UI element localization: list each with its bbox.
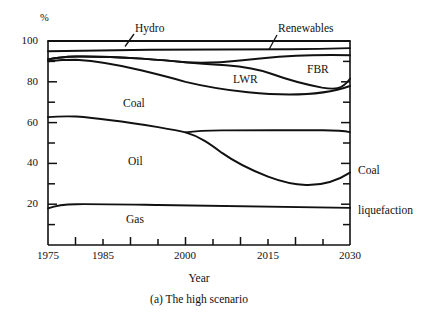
x-axis-title: Year: [169, 272, 229, 284]
band-label-oil: Oil: [128, 155, 143, 167]
y-tick-label-20: 20: [8, 198, 38, 210]
x-tick-label-1975: 1975: [28, 250, 68, 262]
renewables-leader-line: [269, 35, 277, 50]
x-tick-label-2030: 2030: [330, 250, 370, 262]
band-label-gas: Gas: [126, 213, 144, 225]
y-tick-label-60: 60: [8, 117, 38, 129]
curve-coal-liquefaction-boundary: [186, 130, 351, 132]
x-tick-label-1985: 1985: [83, 250, 123, 262]
curve-hydro-top: [48, 48, 350, 51]
side-label-line-1: Coal: [358, 164, 413, 177]
side-label-coal-liquefaction: Coal liquefaction: [358, 138, 413, 244]
y-axis-ticks-left: [48, 41, 57, 225]
x-tick-label-2000: 2000: [165, 250, 205, 262]
band-label-coal: Coal: [123, 97, 145, 109]
curve-coal-top: [48, 60, 350, 95]
x-tick-label-2015: 2015: [248, 250, 288, 262]
band-label-hydro: Hydro: [135, 22, 164, 34]
y-tick-label-100: 100: [8, 35, 38, 47]
band-label-renewables: Renewables: [278, 22, 334, 34]
curve-oil-top: [48, 116, 350, 185]
figure-caption: (a) The high scenario: [89, 293, 309, 305]
band-label-lwr: LWR: [233, 73, 258, 85]
figure-container: % 100 80 60 40 20 1975 1985 2000 2015 20…: [0, 0, 438, 316]
plot-frame: [48, 41, 350, 245]
x-axis-ticks: [76, 237, 324, 245]
series-curves: [48, 41, 350, 208]
y-tick-label-80: 80: [8, 76, 38, 88]
band-label-fbr: FBR: [307, 63, 329, 75]
side-label-line-2: liquefaction: [358, 204, 413, 217]
y-axis-unit-label: %: [40, 12, 49, 23]
y-tick-label-40: 40: [8, 157, 38, 169]
curve-gas-top: [48, 204, 350, 208]
